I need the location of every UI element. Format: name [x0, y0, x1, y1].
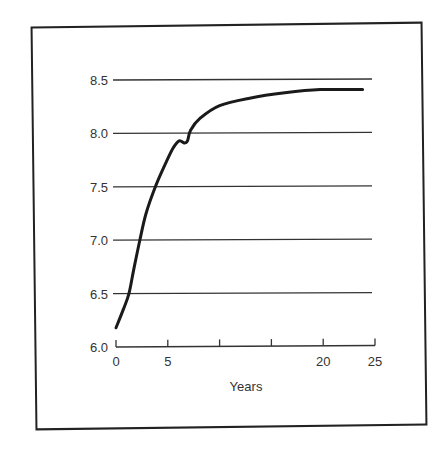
gridline [113, 186, 372, 187]
y-tick-label: 8.0 [90, 126, 108, 141]
gridlines [113, 79, 372, 294]
y-tick-label: 6.5 [90, 287, 108, 302]
gridline [113, 239, 372, 240]
y-tick-label: 7.0 [90, 233, 108, 248]
x-axis: 052025 [112, 339, 382, 370]
y-tick-label: 8.5 [90, 73, 108, 88]
x-tick-label: 0 [112, 354, 119, 369]
y-axis: 6.06.57.07.58.08.5 [90, 73, 108, 355]
x-tick-label: 20 [316, 354, 330, 369]
y-tick-label: 6.0 [90, 340, 108, 355]
data-line [116, 89, 363, 327]
y-tick-label: 7.5 [90, 180, 108, 195]
line-chart: 6.06.57.07.58.08.5 052025 Years [0, 0, 442, 457]
gridline [113, 132, 372, 133]
x-axis-line [116, 346, 375, 348]
gridline [113, 293, 372, 294]
x-axis-title: Years [230, 379, 263, 394]
x-tick-label: 25 [368, 354, 382, 369]
x-tick-label: 5 [164, 354, 171, 369]
gridline [113, 79, 372, 80]
